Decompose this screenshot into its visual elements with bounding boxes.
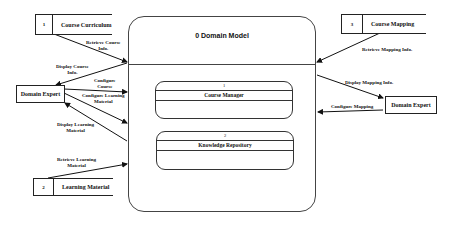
- flow-label-retrieve-learning-material: Retrieve Learning Material: [57, 157, 96, 169]
- main-process-title: 0 Domain Model: [129, 32, 315, 39]
- flow-label-retrieve-mapping-info: Retrieve Mapping Info.: [362, 47, 412, 53]
- flow-label-line: Info.: [86, 46, 121, 52]
- main-process-divider: [129, 64, 315, 65]
- flow-label-line: Material: [82, 99, 125, 105]
- data-store-name: Course Curriculum: [53, 22, 112, 28]
- flow-label-configure-learning-material: Configure Learning Material: [82, 93, 125, 105]
- sub-process-name: Course Manager: [156, 90, 292, 101]
- data-store-learning-material[interactable]: 2 Learning Material: [33, 178, 113, 196]
- data-store-course-curriculum[interactable]: 1 Course Curriculum: [35, 14, 112, 35]
- sub-process-number: 2: [157, 133, 293, 138]
- arrow-display-mapping-info: [317, 75, 383, 98]
- data-store-number: 1: [36, 15, 53, 34]
- flow-label-display-learning-material: Display Learning Material: [57, 122, 94, 134]
- sub-process-knowledge-repository[interactable]: 2 Knowledge Repository: [156, 131, 294, 170]
- flow-label-configure-course: Configure Course: [94, 78, 116, 90]
- sub-process-number: 1: [156, 83, 292, 88]
- data-store-name: Course Mapping: [363, 21, 414, 27]
- flow-label-display-mapping-info: Display Mapping Info.: [345, 80, 393, 86]
- arrow-configure-mapping: [318, 110, 383, 112]
- external-entity-domain-expert-right[interactable]: Domain Expert: [385, 96, 437, 114]
- flow-label-line: Course: [94, 84, 116, 90]
- flow-label-line: Material: [57, 128, 94, 134]
- data-store-course-mapping[interactable]: 3 Course Mapping: [341, 14, 426, 34]
- flow-label-retrieve-course-info: Retrieve Course Info.: [86, 40, 121, 52]
- sub-process-course-manager[interactable]: 1 Course Manager: [155, 81, 293, 119]
- data-store-number: 3: [342, 15, 363, 33]
- flow-label-line: Material: [57, 163, 96, 169]
- data-store-number: 2: [34, 179, 54, 195]
- flow-label-line: Info.: [56, 70, 89, 76]
- sub-process-name: Knowledge Repository: [157, 140, 293, 151]
- external-entity-domain-expert-left[interactable]: Domain Expert: [16, 85, 65, 103]
- data-store-name: Learning Material: [54, 184, 110, 190]
- flow-label-configure-mapping: Configure Mapping: [331, 104, 373, 110]
- flow-label-display-course-info: Display Course Info.: [56, 64, 89, 76]
